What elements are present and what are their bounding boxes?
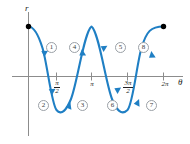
axis-label-r: r	[25, 4, 29, 13]
segment-badge-6: 6	[107, 100, 118, 111]
fraction-denominator: 2	[54, 88, 60, 95]
arrow-segment-7	[133, 98, 142, 107]
tick-label-two-pi: 2π	[157, 81, 173, 88]
polar-curve-figure: r θ π 2 π 3π 2 2π 1 2 3 4 5 6 7 8	[0, 0, 190, 144]
start-point-dot	[26, 24, 31, 29]
tick-label-three-pi-over-2: 3π 2	[119, 80, 137, 96]
arrow-segment-8	[148, 51, 156, 59]
segment-badge-2: 2	[38, 100, 49, 111]
segment-badge-3: 3	[77, 100, 88, 111]
plot-canvas	[0, 0, 190, 144]
tick-label-pi: π	[85, 81, 99, 88]
segment-badge-7: 7	[146, 100, 157, 111]
fraction-pi-over-2: π 2	[54, 80, 60, 96]
segment-badge-5: 5	[115, 42, 126, 53]
fraction-denominator: 2	[123, 88, 132, 95]
direction-arrows	[40, 45, 155, 110]
curve-cos-2theta	[29, 27, 164, 113]
axis-label-theta: θ	[178, 78, 182, 87]
arrow-segment-4	[78, 49, 86, 57]
segment-badge-1: 1	[46, 42, 57, 53]
tick-label-pi-over-2: π 2	[49, 80, 65, 96]
end-point-dot	[161, 24, 166, 29]
fraction-three-pi-over-2: 3π 2	[123, 80, 132, 96]
segment-badge-4: 4	[69, 42, 80, 53]
segment-badge-8: 8	[138, 42, 149, 53]
